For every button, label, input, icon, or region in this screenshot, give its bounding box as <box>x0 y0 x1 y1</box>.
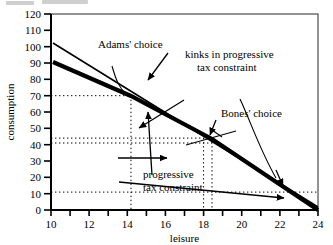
annotation-bones-choice: Bones' choice <box>221 107 282 119</box>
scan-artifact-1 <box>6 1 34 5</box>
y-tick-label-20: 20 <box>30 171 42 183</box>
y-axis-title: consumption <box>4 83 16 140</box>
y-tick-label-50: 50 <box>30 122 42 134</box>
annotation-progressive-line2: tax constraint <box>143 181 203 193</box>
scan-artifact-2 <box>42 0 88 4</box>
annotation-adams-choice: Adams' choice <box>98 38 163 50</box>
x-tick-label-22: 22 <box>274 218 285 230</box>
chart-background <box>0 0 333 245</box>
y-tick-label-10: 10 <box>30 188 42 200</box>
y-tick-label-40: 40 <box>30 139 42 151</box>
annotation-kinks-line1: kinks in progressive <box>185 48 274 60</box>
y-tick-label-0: 0 <box>36 204 42 216</box>
annotation-kinks-line2: tax constraint <box>197 61 257 73</box>
y-tick-label-120: 120 <box>25 8 42 20</box>
y-tick-label-70: 70 <box>30 90 42 102</box>
y-tick-label-110: 110 <box>25 24 42 36</box>
x-tick-label-16: 16 <box>160 218 172 230</box>
annotation-progressive-line1: progressive <box>143 168 194 180</box>
economics-budget-constraint-chart: 0 10 20 30 40 50 60 70 80 90 100 110 120 <box>0 0 333 245</box>
x-tick-label-12: 12 <box>84 218 95 230</box>
x-tick-label-10: 10 <box>46 218 58 230</box>
x-tick-label-20: 20 <box>236 218 248 230</box>
y-tick-label-90: 90 <box>30 57 42 69</box>
x-axis-title: leisure <box>170 232 199 244</box>
chart-figure: 0 10 20 30 40 50 60 70 80 90 100 110 120 <box>0 0 333 245</box>
x-tick-label-14: 14 <box>122 218 134 230</box>
x-tick-label-24: 24 <box>313 218 325 230</box>
y-tick-label-30: 30 <box>30 155 42 167</box>
y-tick-label-80: 80 <box>30 73 42 85</box>
y-tick-label-100: 100 <box>25 41 42 53</box>
y-tick-label-60: 60 <box>30 106 42 118</box>
x-tick-label-18: 18 <box>198 218 210 230</box>
